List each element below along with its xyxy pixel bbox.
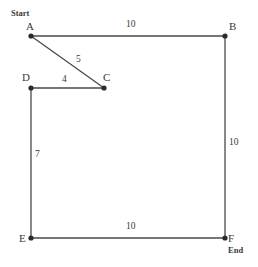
edge-weight-d-c: 4 <box>62 75 67 85</box>
edge-weight-d-e: 7 <box>35 150 40 160</box>
edge-layer <box>31 36 225 238</box>
node-label-a: A <box>26 21 34 32</box>
node-label-d: D <box>22 72 30 83</box>
graph-node-f <box>222 235 227 240</box>
node-label-b: B <box>229 21 236 32</box>
node-layer <box>28 33 227 240</box>
edge-weight-a-c: 5 <box>76 55 81 65</box>
node-label-c: C <box>103 72 110 83</box>
graph-node-a <box>28 33 33 38</box>
edge-weight-e-f: 10 <box>126 222 136 232</box>
diagram-canvas: 105471010AStartBCDEFEnd <box>0 0 258 267</box>
terminal-label-start: Start <box>11 9 29 18</box>
graph-node-b <box>222 33 227 38</box>
graph-edge-a-c <box>31 36 104 88</box>
graph-node-e <box>28 235 33 240</box>
edge-weight-b-f: 10 <box>229 138 239 148</box>
node-label-f: F <box>228 233 234 244</box>
node-label-e: E <box>19 233 26 244</box>
terminal-label-end: End <box>228 246 243 255</box>
graph-node-d <box>28 85 33 90</box>
graph-node-c <box>101 85 106 90</box>
edge-weight-a-b: 10 <box>126 20 136 30</box>
